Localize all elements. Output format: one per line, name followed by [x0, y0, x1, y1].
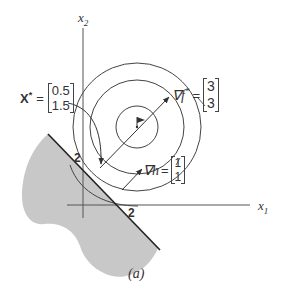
grad-f-symbol: ∇f*: [172, 86, 189, 104]
x2-axis-label: x2: [78, 10, 88, 28]
grad-f-label: ∇f* = 3 3: [172, 78, 219, 112]
x-star-equals: =: [36, 91, 44, 106]
grad-f-vector: 3 3: [203, 78, 219, 112]
tick-x2-2: 2: [74, 151, 81, 165]
grad-h-val-2: 1: [175, 170, 182, 184]
x1-label-sub: 1: [264, 206, 269, 216]
grad-f-val-1: 3: [207, 78, 215, 95]
x-star-vector: 0.5 1.5: [48, 83, 74, 113]
grad-h-label: ∇h = 1 1: [143, 156, 185, 184]
x-star-symbol: X*: [20, 90, 32, 106]
x2-label-sub: 2: [84, 18, 89, 28]
x1-axis-label: x1: [258, 198, 268, 216]
x-star-sup: *: [29, 90, 33, 100]
tick-x1-2: 2: [128, 206, 135, 220]
grad-f-val-2: 3: [207, 95, 215, 112]
x-star-letter: X: [20, 91, 29, 106]
grad-h-vector: 1 1: [171, 156, 186, 184]
grad-h-equals: =: [161, 163, 169, 178]
figure-caption: (a): [128, 266, 144, 282]
x-star-val-1: 0.5: [52, 83, 70, 98]
grad-f-sup: *: [185, 86, 190, 96]
optimization-diagram: x2 x1 2 2 X* = 0.5 1.5 ∇f* = 3 3 ∇h = 1 …: [0, 0, 281, 295]
grad-h-symbol: ∇h: [143, 162, 159, 179]
x-star-val-2: 1.5: [52, 98, 70, 113]
grad-f-equals: =: [192, 88, 200, 103]
optimum-point-label: X* = 0.5 1.5: [20, 83, 74, 113]
grad-f-text: ∇f: [172, 88, 185, 103]
diagram-canvas: [0, 0, 281, 295]
grad-h-val-1: 1: [175, 156, 182, 170]
